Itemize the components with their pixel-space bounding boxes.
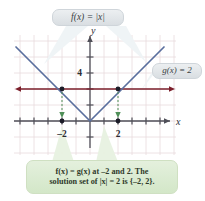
x-axis-label: x xyxy=(175,116,181,127)
g-function-callout: g(x) = 2 xyxy=(152,63,202,79)
y-axis xyxy=(87,36,94,148)
caption-line-1: f(x) = g(x) at –2 and 2. The xyxy=(56,167,149,177)
caption-line-2: solution set of |x| = 2 is {–2, 2}. xyxy=(49,177,154,187)
grid-lines xyxy=(14,35,176,155)
y-tick-label-4: 4 xyxy=(77,68,82,78)
x-tick-label-2: 2 xyxy=(116,129,121,139)
g-line xyxy=(15,86,175,92)
f-function-label: f(x) = |x| xyxy=(71,12,105,24)
f-function-callout: f(x) = |x| xyxy=(52,9,124,26)
figure-container: –2 2 4 x y f(x) = |x| g(x) = 2 f(x) = g(… xyxy=(0,0,205,201)
y-axis-label: y xyxy=(90,25,96,36)
g-function-label: g(x) = 2 xyxy=(162,65,192,76)
x-tick-label-neg2: –2 xyxy=(56,129,67,139)
solution-caption: f(x) = g(x) at –2 and 2. The solution se… xyxy=(26,160,178,194)
